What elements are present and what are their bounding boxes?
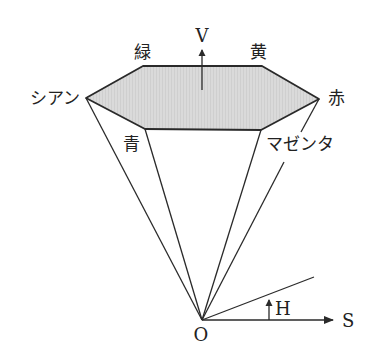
edge-magenta <box>202 130 261 320</box>
h-label: H <box>275 298 291 319</box>
edge-cyan <box>86 98 202 320</box>
edge-blue <box>145 129 202 320</box>
red-label: 赤 <box>328 88 345 108</box>
cone-edges <box>86 98 319 320</box>
v-label: V <box>195 25 210 46</box>
edge-red-lower <box>202 162 284 320</box>
hue-angle-line <box>202 277 314 320</box>
s-label: S <box>342 310 354 331</box>
yellow-label: 黄 <box>250 42 267 62</box>
blue-label: 青 <box>123 134 140 154</box>
hsv-hexcone-diagram: V 緑 黄 シアン 赤 青 マゼンタ O H S <box>0 0 375 364</box>
origin-label: O <box>194 324 209 345</box>
diagram-svg: V 緑 黄 シアン 赤 青 マゼンタ O H S <box>0 0 375 364</box>
cyan-label: シアン <box>30 88 80 108</box>
magenta-label: マゼンタ <box>266 134 334 154</box>
green-label: 緑 <box>134 42 151 62</box>
